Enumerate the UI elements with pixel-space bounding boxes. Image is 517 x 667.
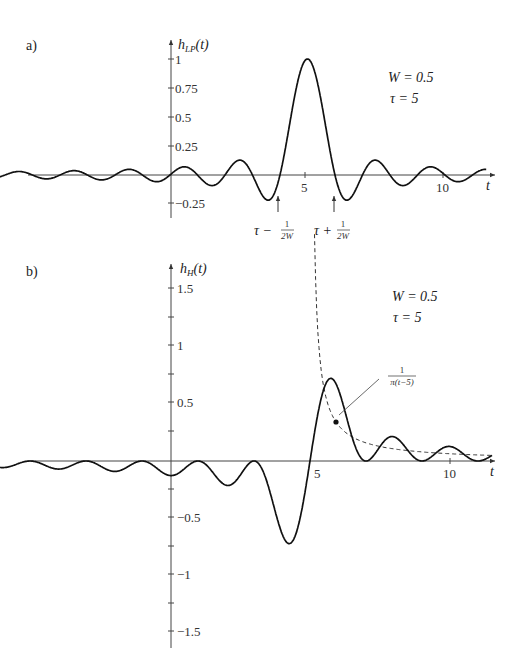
panel-a: a) hLP(t) t 1 0.75 0.5 0.25 −0.25 5 10 W… — [0, 37, 495, 241]
y-axis-label: hH(t) — [180, 261, 207, 278]
ytick-neg0.25: −0.25 — [175, 196, 205, 211]
panel-a-label: a) — [26, 38, 37, 54]
ytick-1.5: 1.5 — [177, 281, 193, 296]
annotation-dot — [333, 419, 338, 424]
y-ticks — [168, 288, 450, 631]
marker-right-label: τ + — [314, 223, 332, 238]
ytick-0.75: 0.75 — [175, 81, 198, 96]
annotation-leader — [339, 379, 379, 415]
ytick-1: 1 — [177, 338, 184, 353]
ytick-neg1.5: −1.5 — [177, 624, 201, 639]
frac-den-left: 2W — [281, 231, 295, 241]
xtick-5: 5 — [314, 466, 321, 481]
ytick-neg0.5: −0.5 — [177, 510, 201, 525]
envelope-num: 1 — [400, 365, 405, 375]
envelope-den: π(t−5) — [390, 377, 414, 387]
figure: a) hLP(t) t 1 0.75 0.5 0.25 −0.25 5 10 W… — [0, 0, 517, 667]
panel-b-label: b) — [26, 264, 38, 280]
param-tau: τ = 5 — [393, 310, 421, 325]
ytick-0.25: 0.25 — [175, 139, 198, 154]
ytick-1: 1 — [175, 52, 182, 67]
xtick-10: 10 — [443, 466, 456, 481]
param-w: W = 0.5 — [388, 70, 434, 85]
frac-num-left: 1 — [285, 219, 290, 229]
ytick-0.5: 0.5 — [175, 110, 191, 125]
envelope-dashed-curve — [315, 234, 492, 455]
panel-b: b) hH(t) t 1.5 1 0.5 −0.5 −1 −1.5 5 10 — [0, 234, 495, 648]
xtick-5: 5 — [301, 180, 308, 195]
xtick-10: 10 — [436, 180, 449, 195]
param-w: W = 0.5 — [392, 289, 438, 304]
param-tau: τ = 5 — [390, 91, 418, 106]
ytick-0.5: 0.5 — [177, 395, 193, 410]
marker-left-label: τ − — [254, 223, 272, 238]
frac-den-right: 2W — [337, 231, 351, 241]
x-axis-label: t — [490, 464, 495, 479]
ytick-neg1: −1 — [177, 567, 191, 582]
y-axis-label: hLP(t) — [178, 37, 209, 54]
frac-num-right: 1 — [341, 219, 346, 229]
x-axis-label: t — [486, 178, 491, 193]
